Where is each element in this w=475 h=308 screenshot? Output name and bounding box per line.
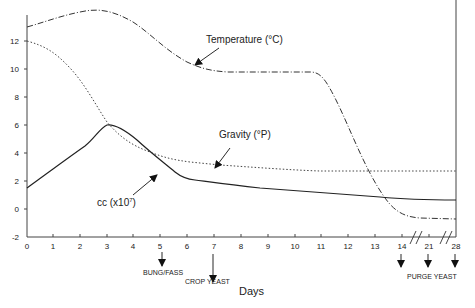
gravity-arrow	[215, 148, 230, 168]
y-tick-label: 12	[10, 37, 19, 46]
y-tick-label: 2	[15, 177, 20, 186]
x-tick-label: 9	[266, 242, 271, 251]
cc-arrow	[133, 175, 157, 195]
y-tick-label: 8	[15, 93, 20, 102]
x-tick-label: 2	[78, 242, 83, 251]
x-tick-label: 11	[317, 242, 326, 251]
y-tick-label: 6	[15, 121, 20, 130]
x-tick-label: 3	[105, 242, 110, 251]
fermentation-chart: 12 10 8 6 4 2 0 -2 0 1 2 3 4 5 6 7 8 9 1…	[0, 0, 475, 308]
x-tick-label: 13	[371, 242, 380, 251]
x-tick-label: 10	[291, 242, 300, 251]
x-tick-label: 14	[398, 242, 407, 251]
x-axis-label: Days	[239, 285, 265, 297]
cc-label-close: )	[133, 197, 136, 208]
x-tick-label: 8	[239, 242, 244, 251]
temperature-arrow	[195, 48, 219, 65]
x-tick-label: 12	[344, 242, 353, 251]
x-tick-label: 28	[452, 242, 461, 251]
crop-label: CROP YEAST	[185, 278, 231, 285]
gravity-label: Gravity (°P)	[219, 129, 271, 140]
x-tick-label: 1	[51, 242, 56, 251]
purge-label: PURGE YEAST	[407, 273, 457, 280]
x-tick-label: 5	[158, 242, 163, 251]
bung-label: BUNG/FASS	[143, 269, 183, 276]
gravity-line	[27, 41, 456, 171]
y-tick-label: 4	[15, 149, 20, 158]
y-tick-label: -2	[12, 233, 20, 242]
temperature-label: Temperature (°C)	[206, 34, 283, 45]
y-ticks: 12 10 8 6 4 2 0 -2	[10, 37, 27, 242]
x-tick-label: 21	[425, 242, 434, 251]
cc-label: cc (x107)	[97, 197, 136, 208]
y-tick-label: 10	[10, 65, 19, 74]
x-tick-label: 4	[131, 242, 136, 251]
x-tick-label: 7	[212, 242, 217, 251]
x-tick-label: 6	[185, 242, 190, 251]
y-tick-label: 0	[15, 205, 20, 214]
cc-label-base: cc (x10	[97, 197, 130, 208]
x-tick-label: 0	[25, 242, 30, 251]
